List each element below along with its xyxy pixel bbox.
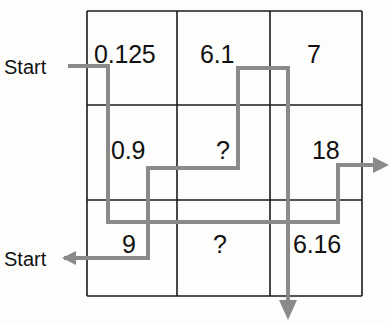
- path-b-arrowhead-down-icon: [279, 300, 297, 320]
- cell-r1c2-value: 6.1: [200, 42, 234, 67]
- cell-r1c1-value: 0.125: [94, 42, 156, 67]
- path-from-bottom-start: [64, 68, 288, 306]
- cell-r2c2-value: ?: [216, 138, 230, 163]
- cell-r2c1-value: 0.9: [111, 138, 145, 163]
- start-label-top: Start: [4, 57, 46, 77]
- path-b-line: [64, 68, 288, 306]
- start-label-bottom: Start: [4, 249, 46, 269]
- path-a-arrowhead-right-icon: [373, 157, 389, 173]
- cell-r1c3-value: 7: [307, 42, 321, 67]
- cell-r2c3-value: 18: [312, 138, 339, 163]
- path-b-arrowhead-left-icon: [62, 251, 76, 265]
- cell-r3c2-value: ?: [213, 232, 227, 257]
- cell-r3c3-value: 6.16: [293, 232, 341, 257]
- cell-r3c1-value: 9: [122, 232, 136, 257]
- puzzle-figure: 0.125 6.1 7 0.9 ? 18 9 ? 6.16 Start Star…: [0, 0, 390, 324]
